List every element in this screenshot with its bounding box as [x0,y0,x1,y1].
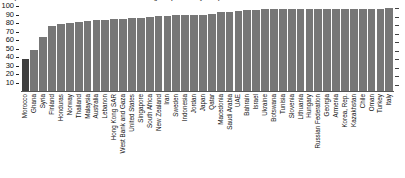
x-axis-tick-label: Korea, Rep. [342,94,348,128]
x-axis-tick-label: Singapore [138,94,144,123]
x-axis-tick-label: Ukraine [262,94,268,116]
bar [226,12,234,91]
x-axis-label-slot: Morocco [21,92,30,178]
x-axis-label-slot: Italy [385,92,394,178]
x-axis-label-slot: United States [128,92,137,178]
x-axis-label-slot: Iran [163,92,172,178]
x-axis-tick-label: Sweden [173,94,179,117]
x-axis-tick-label: Syria [40,94,46,108]
y-axis-tick-label: 80 [6,19,14,27]
x-axis-tick-label: Macedonia [218,94,224,125]
right-axis-tick-mark [395,51,399,52]
y-axis-tick-label: 100 [1,2,14,10]
bar [22,59,30,91]
bar [119,19,127,91]
y-axis-tick-mark [16,23,20,24]
bar [110,19,118,91]
y-axis-tick-mark [16,74,20,75]
y-axis-tick-label: 30 [6,62,14,70]
bar [297,9,305,91]
bar [84,21,92,91]
y-axis-tick-label: 40 [6,53,14,61]
x-axis-tick-label: Morocco [22,94,28,118]
x-axis-tick-label: Tunisia [280,94,286,114]
bar [288,9,296,91]
right-axis-tick-mark [395,42,399,43]
x-axis-label-slot: Botswana [270,92,279,178]
bar [261,9,269,91]
x-axis-tick-label: Kazakhstan [351,94,357,127]
x-axis-label-slot: South Africa [145,92,154,178]
bar [385,8,393,91]
bar [208,14,216,91]
bar [190,15,198,92]
x-axis-label-slot: Indonesia [181,92,190,178]
bar [30,50,38,91]
x-axis-label-slot: UAE [234,92,243,178]
x-axis-tick-label: New Zealand [155,94,161,131]
x-axis-label-slot: Singapore [136,92,145,178]
x-axis-label-slot: Chile [358,92,367,178]
x-axis-tick-label: West Bank and Gaza [120,94,126,153]
x-axis-tick-label: Italy [386,94,392,106]
x-axis-tick-label: Georgia [324,94,330,116]
x-axis-label-slot: Malaysia [83,92,92,178]
bar [359,9,367,91]
bar [164,16,172,91]
x-axis-label-slot: Japan [199,92,208,178]
y-axis-tick-mark [16,57,20,58]
x-axis-tick-label: Turkey [377,94,383,113]
x-axis-label-slot: Kazakhstan [349,92,358,178]
bar [146,17,154,91]
x-axis-tick-label: United States [129,94,135,132]
plot-area [21,6,394,91]
right-axis-tick-mark [395,68,399,69]
x-axis-tick-label: Chile [360,94,366,108]
x-axis-label-slot: Macedonia [216,92,225,178]
x-axis-label-slot: Armenia [332,92,341,178]
x-axis-label-slot: West Bank and Gaza [119,92,128,178]
x-axis-labels: MoroccoGhanaSyriaFinlandHondurasNorwayTh… [21,92,394,178]
x-axis-label-slot: Georgia [323,92,332,178]
x-axis-tick-label: Iran [164,94,170,105]
bar [66,23,74,91]
bar [57,24,65,91]
x-axis-label-slot: Saudi Arabia [225,92,234,178]
x-axis-label-slot: Lebanon [101,92,110,178]
y-axis: 102030405060708090100 [0,2,19,91]
x-axis-label-slot: Sweden [172,92,181,178]
x-axis-label-slot: Norway [65,92,74,178]
x-axis-tick-label: Thailand [76,94,82,118]
right-axis-tick-mark [395,85,399,86]
bar [75,22,83,91]
bar [377,9,385,91]
x-axis-tick-label: Lebanon [102,94,108,119]
x-axis-label-slot: Bahrain [243,92,252,178]
bar [93,20,101,91]
x-axis-label-slot: Finland [48,92,57,178]
x-axis-tick-label: South Africa [147,94,153,128]
x-axis-label-slot: Syria [39,92,48,178]
x-axis-label-slot: Australia [92,92,101,178]
x-axis-tick-label: Israel [253,94,259,109]
x-axis-tick-label: Armenia [333,94,339,117]
bar [314,9,322,91]
bar [217,12,225,91]
x-axis-label-slot: Turkey [376,92,385,178]
bar [252,10,260,91]
x-axis-tick-label: Botswana [271,94,277,122]
x-axis-tick-label: Hong Kong SAR [111,94,117,140]
x-axis-label-slot: Oman [367,92,376,178]
right-axis-ticks [395,8,399,93]
right-axis-tick-mark [395,8,399,9]
x-axis-tick-label: Ghana [31,94,37,113]
bar [181,15,189,91]
x-axis-label-slot: Hungary [305,92,314,178]
x-axis-tick-label: Bahrain [244,94,250,116]
y-axis-tick-mark [16,40,20,41]
x-axis-label-slot: New Zealand [154,92,163,178]
x-axis-label-slot: Hong Kong SAR [110,92,119,178]
right-axis-tick-mark [395,25,399,26]
bar [48,26,56,91]
right-axis-tick-mark [395,76,399,77]
